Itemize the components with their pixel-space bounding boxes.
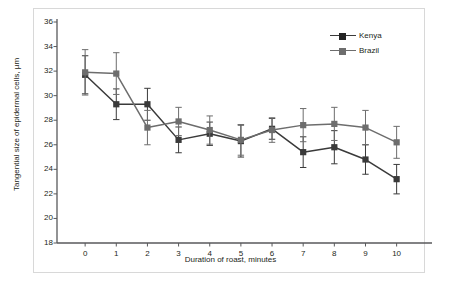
data-point <box>362 124 368 130</box>
data-point <box>238 137 244 143</box>
data-point <box>144 101 150 107</box>
data-point <box>331 144 337 150</box>
y-axis-tick-label: 30 <box>31 91 53 100</box>
data-point <box>113 101 119 107</box>
chart-figure: Tangential size of epidermal cells, µm D… <box>0 0 457 287</box>
data-point <box>207 127 213 133</box>
x-axis-tick-label: 1 <box>105 249 127 258</box>
data-point <box>144 124 150 130</box>
y-axis-tick-label: 24 <box>31 164 53 173</box>
y-axis-tick-label: 26 <box>31 140 53 149</box>
chart-plot-area <box>0 0 457 287</box>
data-point <box>362 156 368 162</box>
x-axis-tick-label: 8 <box>323 249 345 258</box>
data-point <box>269 127 275 133</box>
data-point <box>300 122 306 128</box>
x-axis-tick-label: 9 <box>354 249 376 258</box>
legend-label-brazil: Brazil <box>359 46 379 55</box>
x-axis-tick-label: 3 <box>168 249 190 258</box>
legend-label-kenya: Kenya <box>359 31 382 40</box>
y-axis-tick-label: 20 <box>31 213 53 222</box>
data-point <box>394 176 400 182</box>
data-point <box>175 118 181 124</box>
data-point <box>394 139 400 145</box>
y-axis-tick-label: 34 <box>31 42 53 51</box>
x-axis-tick-label: 5 <box>230 249 252 258</box>
x-axis-tick-label: 7 <box>292 249 314 258</box>
data-point <box>300 149 306 155</box>
legend-marker-brazil <box>330 46 356 55</box>
y-axis-tick-label: 22 <box>31 189 53 198</box>
data-point <box>175 137 181 143</box>
legend-marker-kenya <box>330 31 356 40</box>
x-axis-tick-label: 4 <box>199 249 221 258</box>
x-axis-tick-label: 6 <box>261 249 283 258</box>
x-axis-tick-label: 10 <box>386 249 408 258</box>
y-axis-title: Tangential size of epidermal cells, µm <box>12 25 21 225</box>
y-axis-tick-label: 36 <box>31 17 53 26</box>
data-point <box>331 121 337 127</box>
data-point <box>82 69 88 75</box>
legend-item-kenya: Kenya <box>330 28 382 43</box>
y-axis-tick-label: 28 <box>31 115 53 124</box>
y-axis-tick-label: 32 <box>31 66 53 75</box>
chart-legend: Kenya Brazil <box>330 28 382 58</box>
y-axis-tick-label: 18 <box>31 238 53 247</box>
data-point <box>113 70 119 76</box>
x-axis-tick-label: 0 <box>74 249 96 258</box>
legend-item-brazil: Brazil <box>330 43 382 58</box>
x-axis-tick-label: 2 <box>136 249 158 258</box>
